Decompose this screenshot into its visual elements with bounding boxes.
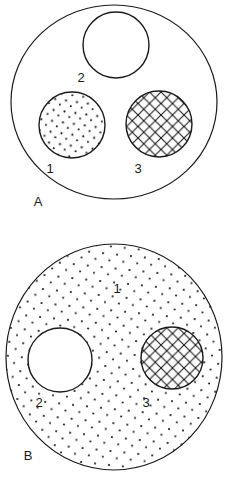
region-3-crosshatch-circle-a xyxy=(126,91,192,157)
region-label-1-panel-a: 1 xyxy=(46,161,53,176)
region-label-2-panel-b: 2 xyxy=(35,395,42,410)
region-label-2-panel-a: 2 xyxy=(77,70,84,85)
region-label-3-panel-b: 3 xyxy=(142,395,149,410)
region-2-blank-circle-a xyxy=(83,12,149,78)
region-3-crosshatch-circle-b xyxy=(141,327,203,389)
panel-label-a: A xyxy=(34,194,43,209)
region-label-3-panel-a: 3 xyxy=(134,161,141,176)
region-1-dotted-circle-a xyxy=(39,92,105,158)
two-panel-circle-diagram: 1 2 3 A 1 2 3 B xyxy=(0,0,228,480)
region-label-1-panel-b: 1 xyxy=(113,281,120,296)
panel-a: 1 2 3 A xyxy=(11,5,217,209)
panel-label-b: B xyxy=(24,448,33,463)
region-2-blank-circle-b xyxy=(28,328,92,392)
panel-b: 1 2 3 B xyxy=(6,244,222,470)
figure-container: 1 2 3 A 1 2 3 B xyxy=(0,0,228,480)
